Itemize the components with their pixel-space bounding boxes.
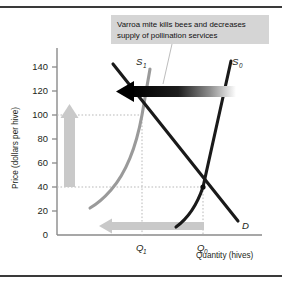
y-tick-marks (52, 67, 57, 211)
y-axis-title: Price (dollars per hive) (11, 107, 20, 189)
curve-label-d: D (242, 220, 249, 231)
curve-label-s0-sub: 0 (239, 62, 243, 69)
y-tick-label-0: 0 (43, 229, 48, 240)
callout-connector (163, 44, 172, 84)
chart-plot-area: 0 20 40 60 80 100 120 140 Price (dollars… (0, 8, 282, 274)
x-tick-label-q0-sub: 0 (204, 248, 208, 255)
y-tick-label-140: 140 (32, 61, 48, 72)
bottom-rule (0, 275, 282, 277)
callout-line-2: supply of pollination services (117, 31, 217, 40)
y-tick-label-40: 40 (38, 181, 48, 192)
equilibrium-point-original (200, 184, 205, 189)
chart-svg: 0 20 40 60 80 100 120 140 Price (dollars… (0, 8, 282, 274)
callout-box: Varroa mite kills bees and decreases sup… (111, 15, 269, 44)
curve-label-s1-sub: 1 (143, 62, 147, 69)
y-tick-label-80: 80 (38, 133, 48, 144)
callout-line-1: Varroa mite kills bees and decreases (117, 20, 246, 29)
x-tick-label-q1-sub: 1 (143, 248, 147, 255)
supply-shift-arrow (116, 81, 236, 102)
guide-lines (57, 115, 203, 235)
y-tick-label-60: 60 (38, 157, 48, 168)
curve-label-s1-base: S (136, 56, 143, 67)
price-rise-arrow (61, 104, 79, 187)
quantity-fall-arrow (99, 219, 204, 234)
curve-label-s0-base: S (232, 56, 239, 67)
y-tick-label-120: 120 (32, 85, 48, 96)
y-tick-label-20: 20 (38, 205, 48, 216)
y-tick-label-100: 100 (32, 109, 48, 120)
figure-container: 0 20 40 60 80 100 120 140 Price (dollars… (0, 0, 282, 284)
